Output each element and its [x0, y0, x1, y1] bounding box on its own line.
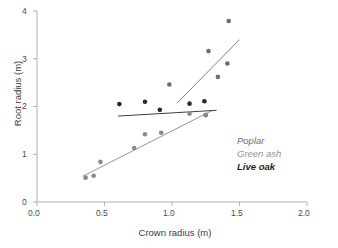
data-point-live-oak: [143, 99, 148, 104]
data-point-poplar: [167, 82, 172, 87]
y-tick-label-2: 2: [22, 101, 27, 111]
data-point-live-oak: [187, 101, 192, 106]
legend-item-live-oak: Live oak: [237, 161, 275, 172]
data-point-green-ash: [203, 113, 208, 118]
scatter-chart-figure: 4 3 2 1 0 0.0 0.5 1.0 1.5 2.0 Root radiu…: [0, 0, 338, 248]
data-point-green-ash: [143, 132, 148, 137]
data-point-poplar: [206, 49, 211, 54]
axes-group: [33, 11, 307, 206]
data-point-green-ash: [187, 111, 192, 116]
data-point-green-ash: [98, 160, 103, 165]
trendlines-group: [83, 40, 240, 177]
x-tick-label-0: 0.0: [28, 208, 40, 218]
x-tick-label-3: 1.5: [231, 208, 243, 218]
y-tick-label-0: 0: [22, 197, 27, 207]
data-point-green-ash: [159, 130, 164, 135]
data-point-live-oak: [117, 102, 122, 107]
x-tick-label-2: 1.0: [163, 208, 175, 218]
data-points-group: [83, 19, 231, 180]
x-tick-label-1: 0.5: [96, 208, 108, 218]
y-tick-label-4: 4: [22, 6, 27, 16]
y-axis-title: Root radius (m): [12, 49, 23, 139]
data-point-poplar: [216, 75, 221, 80]
x-axis-title: Crown radius (m): [110, 227, 240, 238]
data-point-poplar: [225, 61, 230, 66]
trendline-live-oak: [118, 110, 217, 116]
data-point-live-oak: [158, 108, 163, 113]
x-tick-label-4: 2.0: [298, 208, 310, 218]
trendline-green-ash: [83, 110, 213, 176]
data-point-green-ash: [83, 175, 88, 180]
legend-item-poplar: Poplar: [237, 135, 264, 146]
data-point-poplar: [226, 19, 231, 24]
data-point-green-ash: [91, 173, 96, 178]
legend-item-green-ash: Green ash: [237, 148, 281, 159]
data-point-live-oak: [202, 99, 207, 104]
data-point-green-ash: [132, 146, 137, 151]
y-tick-label-1: 1: [22, 149, 27, 159]
y-tick-label-3: 3: [22, 54, 27, 64]
